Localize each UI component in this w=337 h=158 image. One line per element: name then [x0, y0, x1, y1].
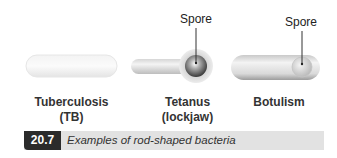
figure-number: 20.7	[24, 131, 61, 150]
botulism-label: Botulism	[245, 95, 313, 110]
figure-caption: Examples of rod-shaped bacteria	[67, 131, 236, 150]
tuberculosis-name: Tuberculosis	[26, 95, 117, 110]
botulism-spore-label: Spore	[285, 15, 317, 29]
tuberculosis-abbrev: (TB)	[26, 110, 117, 125]
tetanus-common-name: (lockjaw)	[150, 110, 225, 125]
tetanus-cell	[131, 49, 213, 83]
tuberculosis-label: Tuberculosis (TB)	[26, 95, 117, 125]
tuberculosis-cell	[26, 55, 117, 77]
botulism-name: Botulism	[245, 95, 313, 110]
botulism-cell	[231, 55, 320, 80]
tetanus-label: Tetanus (lockjaw)	[150, 95, 225, 125]
tetanus-spore-label: Spore	[180, 12, 212, 26]
tetanus-name: Tetanus	[150, 95, 225, 110]
